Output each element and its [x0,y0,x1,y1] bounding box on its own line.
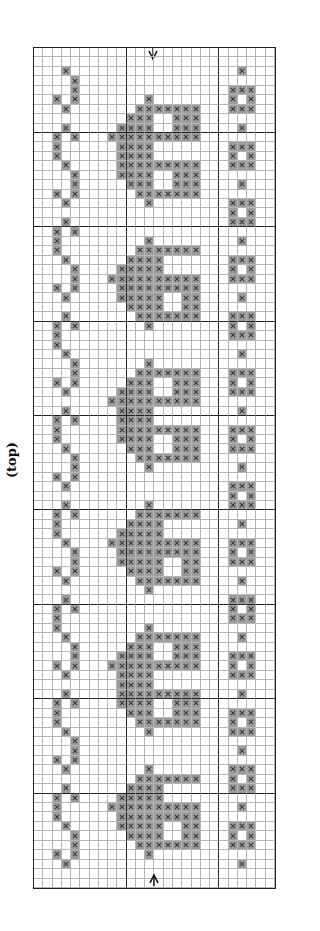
stitch-cell [145,388,154,397]
grid-cell [154,492,163,501]
grid-cell [229,67,238,76]
grid-cell [34,680,43,689]
grid-cell [238,322,247,331]
grid-cell [90,784,99,793]
grid-cell [154,501,163,510]
grid-cell [80,879,89,888]
grid-cell [108,152,117,161]
stitch-cell [229,784,238,793]
grid-cell [62,699,71,708]
grid-cell [34,539,43,548]
grid-cell [62,605,71,614]
grid-cell [229,48,238,57]
grid-cell [99,416,108,425]
stitch-cell [108,803,117,812]
grid-cell [182,208,191,217]
stitch-cell [192,312,201,321]
grid-cell [164,378,173,387]
grid-cell [201,293,210,302]
grid-cell [201,473,210,482]
stitch-cell [238,784,247,793]
stitch-cell [173,426,182,435]
grid-cell [201,312,210,321]
grid-cell [229,463,238,472]
grid-cell [53,746,62,755]
stitch-cell [173,690,182,699]
stitch-cell [238,256,247,265]
stitch-cell [182,652,191,661]
grid-cell [256,482,265,491]
stitch-cell [71,567,80,576]
grid-cell [247,114,256,123]
grid-cell [127,624,136,633]
grid-cell [62,879,71,888]
grid-cell [43,397,52,406]
grid-cell [90,284,99,293]
grid-cell [34,473,43,482]
grid-cell [43,124,52,133]
stitch-cell [182,577,191,586]
grid-cell [108,605,117,614]
grid-cell [164,350,173,359]
grid-cell [90,624,99,633]
stitch-cell [229,369,238,378]
stitch-cell [62,633,71,642]
grid-cell [201,218,210,227]
grid-cell [127,473,136,482]
grid-cell [219,624,228,633]
stitch-cell [145,397,154,406]
stitch-cell [145,190,154,199]
stitch-cell [117,699,126,708]
grid-cell [34,48,43,57]
grid-cell [43,718,52,727]
stitch-cell [62,671,71,680]
stitch-cell [136,265,145,274]
stitch-cell [117,284,126,293]
grid-cell [53,312,62,321]
grid-cell [80,303,89,312]
grid-cell [117,775,126,784]
grid-cell [34,831,43,840]
grid-cell [53,161,62,170]
grid-cell [256,473,265,482]
grid-cell [266,605,275,614]
grid-cell [256,699,265,708]
grid-cell [108,76,117,85]
grid-cell [53,671,62,680]
grid-cell [62,661,71,670]
grid-cell [210,86,219,95]
grid-cell [99,577,108,586]
stitch-cell [145,293,154,302]
grid-cell [266,171,275,180]
grid-cell [99,133,108,142]
grid-cell [192,765,201,774]
stitch-cell [238,595,247,604]
stitch-cell [192,690,201,699]
stitch-cell [71,190,80,199]
grid-cell [266,265,275,274]
grid-cell [229,756,238,765]
grid-cell [210,860,219,869]
grid-cell [80,567,89,576]
grid-cell [173,341,182,350]
grid-cell [210,435,219,444]
grid-cell [43,199,52,208]
grid-cell [219,246,228,255]
grid-cell [62,737,71,746]
stitch-cell [182,831,191,840]
grid-cell [219,765,228,774]
grid-cell [127,76,136,85]
stitch-cell [145,652,154,661]
grid-cell [266,227,275,236]
grid-cell [164,558,173,567]
grid-cell [117,784,126,793]
stitch-cell [62,577,71,586]
grid-cell [154,208,163,217]
grid-cell [127,746,136,755]
grid-cell [238,567,247,576]
stitch-cell [192,661,201,670]
grid-cell [34,190,43,199]
grid-cell [62,492,71,501]
grid-cell [127,86,136,95]
grid-cell [164,756,173,765]
